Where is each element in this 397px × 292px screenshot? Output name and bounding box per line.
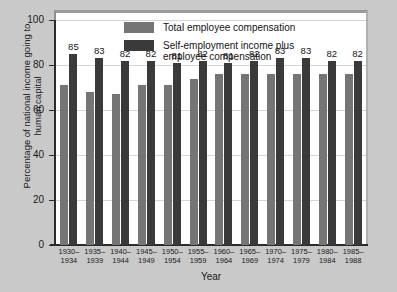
bar xyxy=(173,63,181,245)
bar xyxy=(69,54,77,245)
y-axis-title: Percentage of national income going to h… xyxy=(21,11,43,201)
bar xyxy=(250,61,258,246)
bar xyxy=(190,79,198,246)
bar xyxy=(241,74,249,245)
bar xyxy=(267,74,275,245)
bar xyxy=(138,85,146,245)
x-axis-title: Year xyxy=(54,271,368,282)
bar xyxy=(215,74,223,245)
bar xyxy=(86,92,94,245)
bar-value-label: 82 xyxy=(348,49,368,59)
bar xyxy=(224,63,232,245)
legend-swatch xyxy=(124,22,154,33)
y-tick-label: 0 xyxy=(4,240,44,250)
legend-label: Total employee compensation xyxy=(163,22,295,33)
bar xyxy=(121,61,129,246)
chart-legend: Total employee compensationSelf-employme… xyxy=(124,22,295,69)
bar xyxy=(354,61,362,246)
legend-swatch xyxy=(124,40,154,51)
bar xyxy=(199,61,207,246)
chart-page: 020406080100 Percentage of national inco… xyxy=(0,0,397,292)
bar xyxy=(276,58,284,245)
bar xyxy=(293,74,301,245)
bar xyxy=(147,61,155,246)
legend-label: Self-employment income plus employee com… xyxy=(163,40,294,62)
bar xyxy=(60,85,68,245)
bar xyxy=(164,85,172,245)
bar xyxy=(345,74,353,245)
bar xyxy=(328,61,336,246)
bar xyxy=(302,58,310,245)
bar xyxy=(95,58,103,245)
legend-item: Total employee compensation xyxy=(124,22,295,33)
bar xyxy=(319,74,327,245)
bar xyxy=(112,94,120,245)
bar-value-label: 85 xyxy=(63,42,83,52)
bar-value-label: 83 xyxy=(296,46,316,56)
bar-value-label: 83 xyxy=(89,46,109,56)
bar-value-label: 82 xyxy=(322,49,342,59)
x-tick-label: 1985– 1988 xyxy=(336,248,370,265)
legend-item: Self-employment income plus employee com… xyxy=(124,40,295,62)
